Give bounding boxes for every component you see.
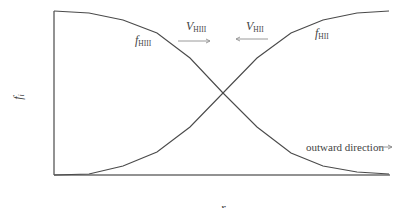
- outward-direction-label: outward direction: [306, 141, 384, 153]
- y-axis-label: fi: [11, 94, 26, 100]
- label-v-hiii: VHIII: [186, 19, 207, 34]
- x-axis-label: r: [221, 201, 226, 208]
- label-f-hii: fHII: [315, 26, 329, 41]
- label-v-hii: VHII: [246, 19, 264, 34]
- arrow-left-icon: [236, 37, 268, 41]
- arrow-right-icon: [178, 39, 210, 43]
- ionization-fraction-diagram: fHIII fHII VHIII VHII outward direction …: [0, 0, 411, 208]
- label-f-hiii: fHIII: [135, 33, 152, 48]
